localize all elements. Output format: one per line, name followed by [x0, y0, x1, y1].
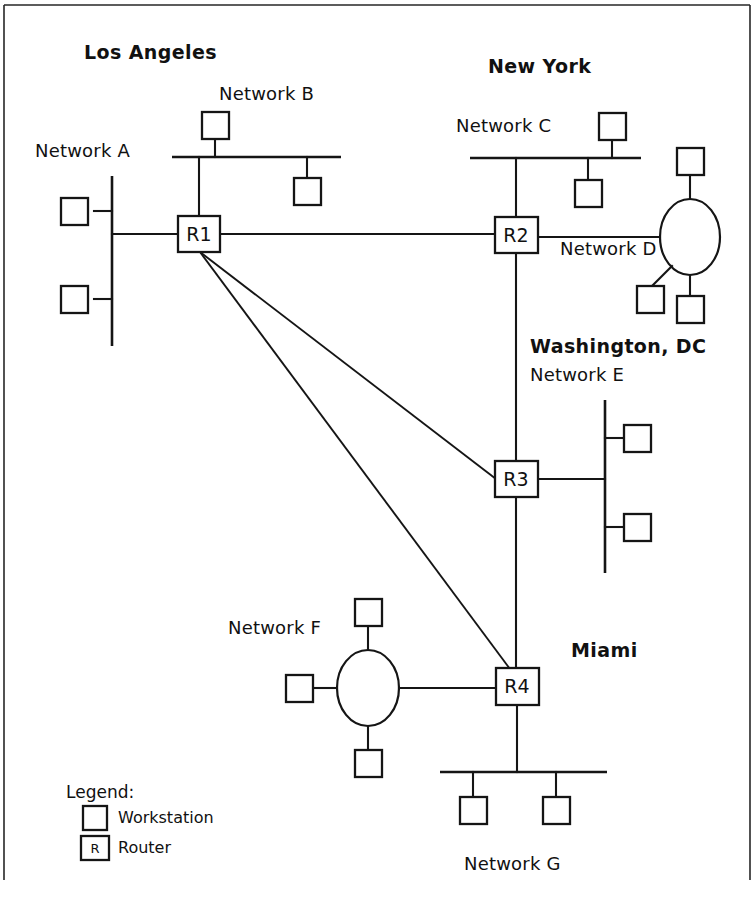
router-r2-label: R2 — [503, 224, 528, 246]
legend-router-icon-letter: R — [90, 841, 99, 856]
router-r2[interactable]: R2 — [495, 217, 538, 253]
network-a-group — [61, 176, 178, 346]
city-label-los-angeles: Los Angeles — [84, 43, 217, 62]
router-r3-label: R3 — [503, 468, 528, 490]
network-e-group — [538, 400, 651, 573]
workstation[interactable] — [599, 113, 626, 140]
workstation[interactable] — [286, 675, 313, 702]
workstation[interactable] — [294, 178, 321, 205]
network-b-group — [172, 112, 341, 216]
workstation[interactable] — [637, 286, 664, 313]
network-d-group — [538, 148, 720, 323]
network-f-ring — [337, 650, 399, 726]
router-r4-label: R4 — [504, 675, 529, 697]
network-label-d: Network D — [560, 240, 657, 258]
network-label-g: Network G — [464, 855, 561, 873]
legend-title: Legend: — [66, 784, 134, 801]
legend-symbols-group: R — [81, 806, 109, 860]
city-label-new-york: New York — [488, 57, 591, 76]
network-label-b: Network B — [219, 85, 314, 103]
workstation[interactable] — [355, 750, 382, 777]
workstation[interactable] — [61, 286, 88, 313]
legend-label-router: Router — [118, 840, 171, 856]
network-label-c: Network C — [456, 117, 551, 135]
network-label-f: Network F — [228, 619, 321, 637]
network-g-group — [440, 705, 607, 824]
workstation[interactable] — [61, 198, 88, 225]
network-d-ring — [660, 199, 720, 275]
diagram-canvas: R1 R2 R3 R4 R Los Angele — [0, 0, 754, 909]
router-r4[interactable]: R4 — [496, 668, 539, 705]
router-r1-label: R1 — [186, 223, 211, 245]
workstation[interactable] — [460, 797, 487, 824]
workstation[interactable] — [202, 112, 229, 139]
network-label-e: Network E — [530, 366, 624, 384]
workstation[interactable] — [355, 599, 382, 626]
workstation[interactable] — [624, 514, 651, 541]
workstation[interactable] — [575, 180, 602, 207]
network-topology-svg: R1 R2 R3 R4 R — [0, 0, 754, 909]
wan-link-r1-r3 — [200, 252, 496, 479]
legend-label-workstation: Workstation — [118, 810, 214, 826]
legend-workstation-icon — [83, 806, 107, 830]
router-r1[interactable]: R1 — [178, 216, 220, 252]
workstation[interactable] — [543, 797, 570, 824]
city-label-washington-dc: Washington, DC — [530, 337, 706, 356]
router-r3[interactable]: R3 — [495, 461, 538, 497]
city-label-miami: Miami — [571, 641, 638, 660]
workstation[interactable] — [677, 148, 704, 175]
workstation[interactable] — [624, 425, 651, 452]
network-label-a: Network A — [35, 142, 130, 160]
workstation[interactable] — [677, 296, 704, 323]
